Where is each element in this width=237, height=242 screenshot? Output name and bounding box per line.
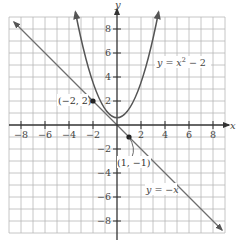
svg-text:−2: −2 <box>97 143 111 154</box>
y-axis-label: y <box>114 0 121 10</box>
coordinate-graph: −8 −6 −4 −2 2 4 6 8 8 6 4 2 −2 −4 −6 −8 … <box>0 0 237 242</box>
svg-text:2: 2 <box>138 129 144 140</box>
svg-text:−8: −8 <box>14 129 28 140</box>
svg-text:−4: −4 <box>62 129 76 140</box>
svg-text:8: 8 <box>105 23 111 34</box>
svg-text:4: 4 <box>162 129 168 140</box>
x-tick-labels: −8 −6 −4 −2 2 4 6 8 <box>14 129 216 140</box>
svg-text:−4: −4 <box>97 167 111 178</box>
parabola-equation-label: y = x2 − 2 <box>156 56 206 68</box>
svg-text:−2: −2 <box>86 129 100 140</box>
point-label-b: (1, −1) <box>117 157 151 168</box>
svg-text:6: 6 <box>105 47 111 58</box>
svg-text:−8: −8 <box>97 215 111 226</box>
line-equation-label: y = −x <box>145 184 179 195</box>
x-axis-label: x <box>230 120 236 131</box>
svg-text:−6: −6 <box>38 129 52 140</box>
svg-text:4: 4 <box>105 71 111 82</box>
svg-text:−6: −6 <box>97 191 111 202</box>
svg-text:8: 8 <box>210 129 216 140</box>
svg-text:6: 6 <box>186 129 192 140</box>
svg-text:2: 2 <box>105 95 111 106</box>
point-label-a: (−2, 2) <box>58 95 92 106</box>
